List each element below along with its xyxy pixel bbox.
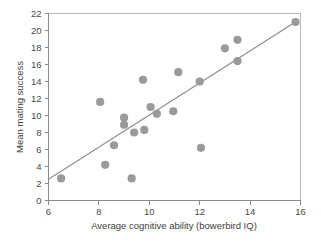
plot-canvas: 0246810121416182022 6810121416 Average c… (0, 0, 321, 244)
y-axis-ticks: 0246810121416182022 (31, 8, 49, 206)
y-tick-label: 10 (31, 110, 42, 121)
data-point (233, 57, 241, 65)
data-point (120, 121, 128, 129)
data-point (101, 161, 109, 169)
y-tick-label: 20 (31, 25, 42, 36)
scatter-plot-figure: 0246810121416182022 6810121416 Average c… (0, 0, 321, 244)
y-tick-label: 16 (31, 59, 42, 70)
trend-line-group (49, 22, 296, 179)
x-tick-label: 14 (245, 206, 256, 217)
data-point (169, 107, 177, 115)
data-point (57, 174, 65, 182)
y-tick-label: 4 (36, 161, 41, 172)
data-point (233, 36, 241, 44)
data-point (221, 44, 229, 52)
data-point (196, 77, 204, 85)
x-axis-ticks: 6810121416 (46, 201, 306, 217)
data-point (139, 76, 147, 84)
data-point (174, 68, 182, 76)
axis-lines (49, 14, 301, 201)
data-point (197, 144, 205, 152)
y-tick-label: 0 (36, 195, 41, 206)
y-tick-label: 12 (31, 93, 42, 104)
x-axis-title: Average cognitive ability (bowerbird IQ) (91, 220, 257, 231)
x-tick-label: 16 (295, 206, 306, 217)
x-tick-label: 6 (46, 206, 51, 217)
x-tick-label: 8 (96, 206, 101, 217)
y-tick-label: 22 (31, 8, 42, 19)
data-point (291, 18, 299, 26)
x-tick-label: 10 (144, 206, 155, 217)
y-tick-label: 14 (31, 76, 42, 87)
y-tick-label: 8 (36, 127, 41, 138)
data-point (96, 98, 104, 106)
plot-frame (49, 14, 301, 201)
y-tick-label: 2 (36, 178, 41, 189)
y-axis-title: Mean mating success (14, 61, 25, 153)
x-tick-label: 12 (194, 206, 205, 217)
y-tick-label: 6 (36, 144, 41, 155)
data-point (153, 110, 161, 118)
linear-fit-line (49, 22, 296, 179)
data-point (130, 128, 138, 136)
data-point (146, 103, 154, 111)
data-point (140, 126, 148, 134)
data-point (120, 114, 128, 122)
data-point (128, 174, 136, 182)
data-point (110, 141, 118, 149)
y-tick-label: 18 (31, 42, 42, 53)
